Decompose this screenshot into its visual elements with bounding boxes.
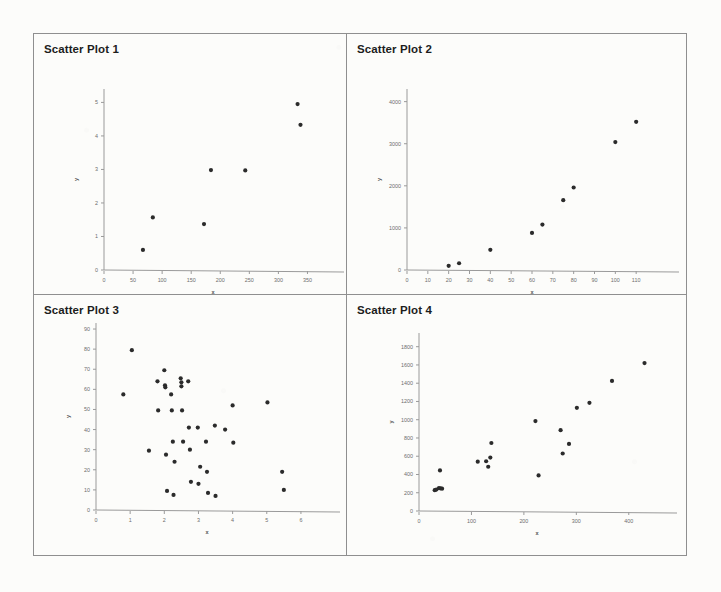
data-point — [196, 425, 200, 429]
x-tick-label: 50 — [130, 277, 136, 283]
data-point — [179, 376, 183, 380]
data-point — [170, 408, 174, 412]
data-point — [610, 379, 614, 383]
y-tick-label: 90 — [84, 326, 90, 332]
x-tick-label: 150 — [187, 277, 196, 283]
panel-scatter-plot-3: Scatter Plot 3 0102030405060708090012345… — [33, 294, 346, 556]
data-point — [169, 392, 173, 396]
y-tick-label: 0 — [95, 267, 98, 273]
data-point — [213, 494, 217, 498]
data-point — [457, 261, 461, 265]
data-point — [181, 440, 185, 444]
x-tick-label: 30 — [467, 277, 473, 283]
y-tick-label: 4 — [95, 133, 98, 139]
data-point — [179, 384, 183, 388]
data-point — [130, 348, 134, 352]
y-tick-label: 50 — [84, 406, 90, 412]
x-tick-label: 200 — [216, 277, 225, 283]
chart-scatter-plot-2: 0100020003000400001020304050607080901001… — [347, 34, 686, 294]
data-point — [164, 453, 168, 457]
data-point — [559, 428, 563, 432]
x-tick-label: 0 — [103, 277, 106, 283]
x-tick-label: 300 — [274, 277, 283, 283]
y-tick-label: 3 — [95, 166, 98, 172]
data-point — [282, 488, 286, 492]
data-point — [540, 222, 544, 226]
y-tick-label: 5 — [95, 99, 98, 105]
data-point — [280, 470, 284, 474]
data-point — [151, 215, 155, 219]
data-point — [171, 493, 175, 497]
y-tick-label: 2 — [95, 200, 98, 206]
y-axis-title: y — [65, 414, 71, 418]
data-point — [484, 459, 488, 463]
x-tick-label: 80 — [571, 277, 577, 283]
x-tick-label: 200 — [519, 518, 528, 524]
x-tick-label: 400 — [624, 518, 633, 524]
y-tick-label: 30 — [84, 447, 90, 453]
y-tick-label: 80 — [84, 346, 90, 352]
x-tick-label: 70 — [550, 277, 556, 283]
scatter-svg-4: 0200400600800100012001400160018000100200… — [347, 295, 687, 557]
x-tick-label: 100 — [158, 277, 167, 283]
x-tick-label: 350 — [303, 277, 312, 283]
data-point — [231, 441, 235, 445]
y-tick-label: 2000 — [389, 183, 401, 189]
data-point — [613, 140, 617, 144]
data-point — [575, 406, 579, 410]
data-point — [156, 408, 160, 412]
y-tick-label: 40 — [84, 427, 90, 433]
data-point — [295, 102, 299, 106]
chart-scatter-plot-4: 0200400600800100012001400160018000100200… — [347, 295, 686, 555]
y-tick-label: 70 — [84, 366, 90, 372]
data-point — [298, 123, 302, 127]
data-point — [179, 380, 183, 384]
x-tick-label: 6 — [299, 517, 302, 523]
y-tick-label: 1600 — [401, 362, 413, 368]
data-point — [231, 403, 235, 407]
x-tick-label: 60 — [529, 277, 535, 283]
data-point — [243, 168, 247, 172]
x-tick-label: 0 — [418, 518, 421, 524]
data-point — [163, 385, 167, 389]
scatter-svg-3: 01020304050607080900123456xy — [34, 295, 346, 556]
x-tick-label: 2 — [163, 517, 166, 523]
data-point — [642, 361, 646, 365]
data-point — [567, 442, 571, 446]
x-tick-label: 100 — [611, 277, 620, 283]
y-tick-label: 1000 — [401, 417, 413, 423]
x-axis-line — [419, 511, 677, 513]
y-tick-label: 4000 — [389, 99, 401, 105]
x-tick-label: 3 — [197, 517, 200, 523]
x-axis-title: x — [205, 529, 209, 535]
y-tick-label: 0 — [87, 507, 90, 513]
data-point — [206, 491, 210, 495]
x-tick-label: 0 — [95, 517, 98, 523]
x-tick-label: 10 — [425, 277, 431, 283]
y-tick-label: 1 — [95, 233, 98, 239]
y-tick-label: 1200 — [401, 398, 413, 404]
data-point — [202, 222, 206, 226]
data-point — [530, 231, 534, 235]
data-point — [223, 427, 227, 431]
chart-scatter-plot-1: 012345050100150200250300350xy — [34, 34, 346, 294]
data-point — [440, 487, 444, 491]
y-tick-label: 600 — [404, 453, 413, 459]
y-tick-label: 1000 — [389, 225, 401, 231]
x-axis-line — [96, 510, 340, 512]
data-point — [204, 440, 208, 444]
x-tick-label: 300 — [572, 518, 581, 524]
data-point — [188, 448, 192, 452]
y-tick-label: 3000 — [389, 141, 401, 147]
y-tick-label: 0 — [410, 508, 413, 514]
x-axis-title: x — [535, 530, 539, 536]
x-tick-label: 50 — [508, 277, 514, 283]
scatter-svg-2: 0100020003000400001020304050607080901001… — [347, 34, 687, 294]
y-tick-label: 400 — [404, 471, 413, 477]
x-tick-label: 5 — [265, 517, 268, 523]
scatter-plot-grid: Scatter Plot 1 0123450501001502002503003… — [33, 33, 687, 556]
x-axis-line — [104, 270, 344, 272]
data-point — [165, 489, 169, 493]
data-point — [213, 423, 217, 427]
data-point — [187, 425, 191, 429]
